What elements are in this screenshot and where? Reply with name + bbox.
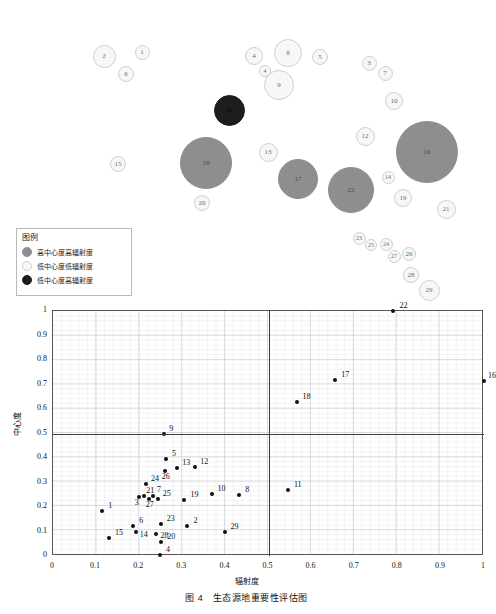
bubble-22: 22	[328, 167, 374, 213]
bubble-16: 16	[396, 121, 458, 183]
y-axis-label: 中心度	[11, 404, 22, 444]
bubble-label: 8	[286, 50, 290, 57]
data-point-14	[134, 530, 138, 534]
bubble-label: 23	[356, 235, 362, 241]
bubble-label: 20	[199, 200, 206, 207]
bubble-13: 13	[259, 143, 278, 162]
x-axis-label: 辐射度	[0, 575, 493, 586]
bubble-8: 8	[274, 39, 302, 67]
legend-title: 图例	[22, 233, 126, 243]
x-tick-label: 0.1	[83, 562, 107, 570]
bubble-15: 15	[110, 156, 126, 172]
bubble-label: 1	[140, 49, 144, 56]
bubble-9: 9	[264, 70, 294, 100]
legend-swatch-icon	[22, 261, 32, 271]
data-point-label: 10	[218, 485, 226, 493]
bubble-24: 24	[380, 238, 393, 251]
legend-rows: 高中心度高辐射度低中心度低辐射度低中心度高辐射度	[22, 245, 126, 287]
data-point-label: 6	[139, 517, 143, 525]
data-point-label: 2	[193, 517, 197, 525]
data-point-label: 17	[341, 371, 349, 379]
data-point-17	[333, 378, 337, 382]
data-point-label: 8	[245, 486, 249, 494]
bubble-1: 1	[135, 45, 150, 60]
y-tick-label: 0.3	[23, 478, 47, 486]
bubble-3: 3	[362, 56, 377, 71]
data-point-label: 11	[294, 481, 302, 489]
bubble-label: 10	[391, 98, 398, 105]
data-point-label: 3	[135, 499, 139, 507]
bubble-label: 11	[226, 107, 233, 114]
data-point-label: 29	[231, 523, 239, 531]
bubble-label: 25	[368, 242, 374, 248]
data-point-label: 26	[162, 473, 170, 481]
x-tick-label: 0.5	[256, 562, 280, 570]
grid-lines	[53, 311, 482, 554]
x-tick-label: 0.8	[385, 562, 409, 570]
horizontal-reference-line	[53, 434, 484, 435]
bubble-28: 28	[403, 267, 419, 283]
bubble-23: 23	[353, 232, 366, 245]
y-tick-label: 0.7	[23, 380, 47, 388]
x-tick-label: 0.7	[342, 562, 366, 570]
bubble-20: 20	[194, 195, 210, 211]
bubble-label: 24	[383, 241, 389, 247]
bubble-label: 28	[408, 272, 415, 279]
data-point-label: 20	[167, 533, 175, 541]
data-point-label: 22	[399, 302, 407, 310]
bubble-label: 13	[265, 149, 272, 156]
plot-area: 2216171895121326241110821732725191236214…	[52, 310, 483, 555]
bubble-5: 5	[312, 49, 328, 65]
bubble-label: 18	[203, 160, 210, 167]
bubble-17: 17	[278, 159, 318, 199]
bubble-29: 29	[419, 280, 440, 301]
legend-swatch-icon	[22, 275, 32, 285]
bubble-19: 19	[394, 189, 412, 207]
data-point-label: 14	[140, 531, 148, 539]
bubble-14: 14	[382, 171, 395, 184]
bubble-12: 12	[356, 127, 375, 146]
data-point-10	[210, 492, 214, 496]
bubble-7: 7	[378, 66, 393, 81]
y-tick-label: 1	[23, 306, 47, 314]
legend-box: 图例 高中心度高辐射度低中心度低辐射度低中心度高辐射度	[16, 228, 132, 296]
bubble-21: 21	[437, 200, 456, 219]
legend-item-2: 低中心度低辐射度	[22, 259, 126, 273]
data-point-label: 27	[146, 501, 154, 509]
bubble-label: 14	[385, 174, 391, 180]
bubble-label: 16	[424, 149, 431, 156]
legend-item-label: 低中心度高辐射度	[37, 276, 93, 285]
bubble-label: 19	[400, 195, 407, 202]
x-tick-label: 0.6	[299, 562, 323, 570]
data-point-29	[223, 530, 227, 534]
data-point-label: 13	[182, 459, 190, 467]
x-tick-label: 0.4	[212, 562, 236, 570]
x-tick-label: 0.9	[428, 562, 452, 570]
y-tick-label: 0.2	[23, 502, 47, 510]
x-tick-label: 0	[40, 562, 64, 570]
bubble-label: 17	[295, 176, 302, 183]
data-point-23	[159, 522, 163, 526]
figure-caption: 图 4 生态源地重要性评估图	[0, 591, 493, 604]
bubble-11: 11	[214, 95, 245, 126]
data-point-label: 24	[151, 475, 159, 483]
bubble-27: 27	[388, 250, 401, 263]
data-point-label: 15	[115, 529, 123, 537]
y-tick-label: 0.1	[23, 527, 47, 535]
bubble-label: 4	[264, 68, 267, 74]
x-tick-label: 1	[471, 562, 495, 570]
bubble-label: 5	[318, 54, 322, 61]
data-point-label: 19	[190, 491, 198, 499]
bubble-label: 3	[367, 60, 371, 67]
y-tick-label: 0.8	[23, 355, 47, 363]
data-point-label: 9	[169, 425, 173, 433]
data-point-label: 7	[157, 486, 161, 494]
data-point-label: 4	[166, 546, 170, 554]
data-point-label: 18	[303, 393, 311, 401]
bubble-18: 18	[180, 137, 232, 189]
data-point-label: 12	[200, 458, 208, 466]
y-tick-label: 0.9	[23, 331, 47, 339]
y-tick-label: 0	[23, 551, 47, 559]
bubble-25: 25	[365, 239, 377, 251]
